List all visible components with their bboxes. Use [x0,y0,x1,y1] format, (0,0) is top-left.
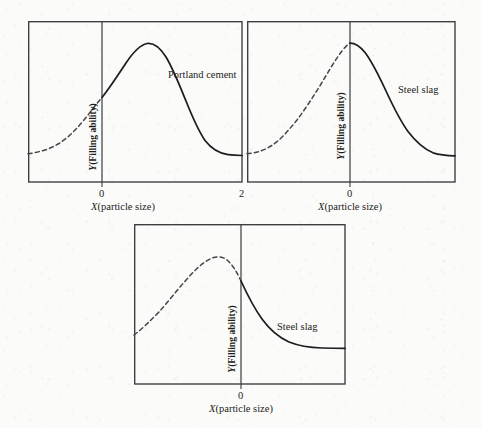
plot-svg-steel-slag-centered: Steel slag Y(Filling ability) 0 X(partic… [247,21,462,201]
y-axis-title-steel-slag-shifted: Y(Filling ability) [226,305,238,372]
curve-solid-segment [350,43,455,156]
x-tick-label-zero: 0 [99,188,104,199]
plot-frame-border [29,22,242,182]
x-tick-label-zero: 0 [238,390,243,401]
x-axis-title-steel-slag-centered: X(particle size) [317,201,382,213]
chart-panel-steel-slag-shifted: Steel slag Y(Filling ability) 0 X(partic… [134,224,352,406]
x-tick-label-two: 2 [239,188,244,199]
plot-svg-steel-slag-shifted: Steel slag Y(Filling ability) 0 X(partic… [134,224,352,406]
curve-solid-segment [102,43,242,155]
curve-dashed-segment [134,257,241,335]
series-label-steel-slag: Steel slag [398,84,439,95]
x-axis-title-portland: X(particle size) [90,201,155,213]
curve-solid-segment [241,281,345,348]
x-axis-title-steel-slag-shifted: X(particle size) [208,403,273,415]
y-axis-title-steel-slag-centered: Y(Filling ability) [335,92,347,159]
y-axis-title-portland: Y(Filling ability) [87,103,99,170]
chart-panel-portland-cement: Portland cement Y(Filling ability) 0 2 X… [28,21,274,201]
chart-panel-steel-slag-centered: Steel slag Y(Filling ability) 0 X(partic… [247,21,462,201]
series-label-steel-slag: Steel slag [277,321,318,332]
plot-svg-portland-cement: Portland cement Y(Filling ability) 0 2 X… [28,21,274,201]
x-tick-label-zero: 0 [347,188,352,199]
series-label-portland-cement: Portland cement [168,69,237,80]
plot-frame-border [248,22,455,182]
